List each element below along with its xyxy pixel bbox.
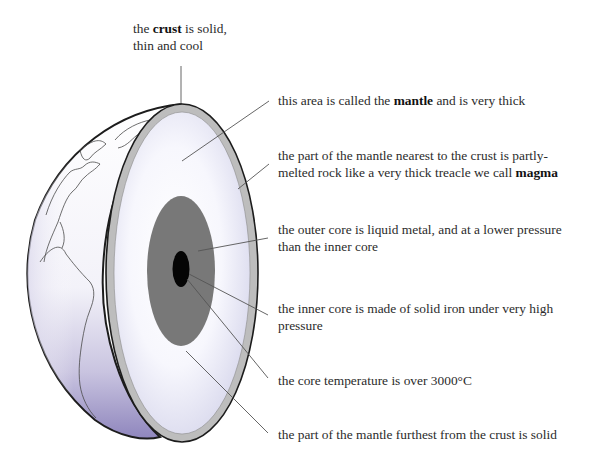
label-magma: the part of the mantle nearest to the cr… bbox=[278, 147, 558, 181]
label-lower-mantle: the part of the mantle furthest from the… bbox=[278, 426, 557, 443]
label-inner-core: the inner core is made of solid iron und… bbox=[278, 300, 553, 334]
inner-core-layer bbox=[173, 251, 190, 287]
label-core-temperature: the core temperature is over 3000°C bbox=[278, 372, 472, 389]
label-outer-core: the outer core is liquid metal, and at a… bbox=[278, 221, 562, 255]
label-mantle: this area is called the mantle and is ve… bbox=[278, 92, 525, 109]
label-crust: the crust is solid, thin and cool bbox=[133, 20, 227, 54]
